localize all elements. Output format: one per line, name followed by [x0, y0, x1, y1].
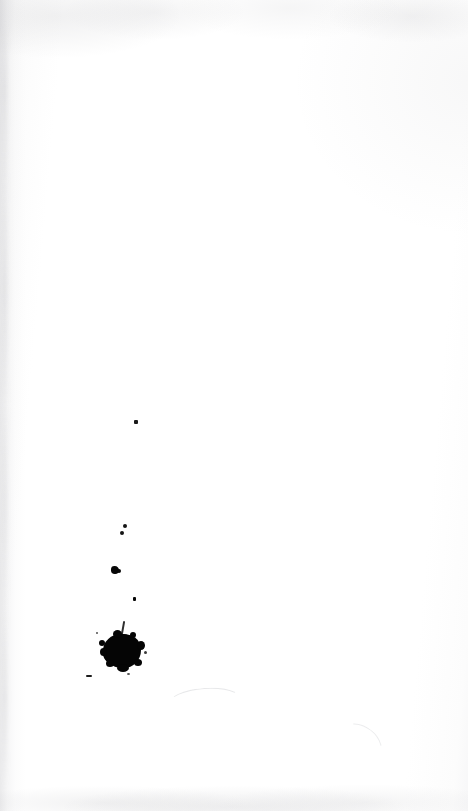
scanned-page [0, 0, 468, 811]
paper-background [0, 0, 468, 811]
